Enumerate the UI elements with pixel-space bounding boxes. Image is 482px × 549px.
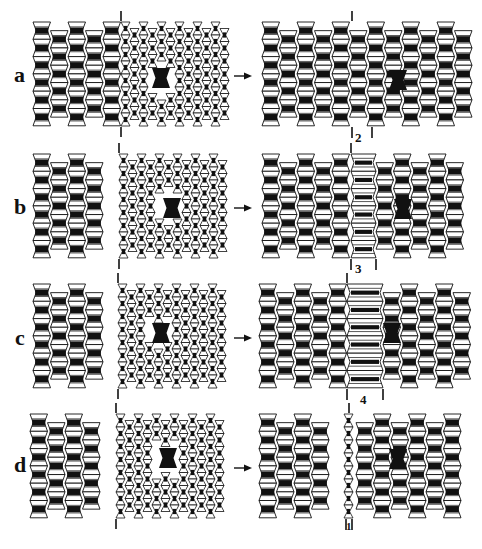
before-lattice-b <box>33 143 227 269</box>
before-lattice-d <box>30 403 224 529</box>
transform-arrow-c <box>234 335 252 342</box>
lattice-row-b <box>33 143 464 270</box>
row-label-d: d <box>14 454 26 476</box>
after-lattice-b <box>262 143 464 270</box>
row-label-b: b <box>14 196 26 218</box>
transform-arrow-a <box>234 73 252 80</box>
after-lattice-c <box>259 273 471 400</box>
row-label-a: a <box>14 64 25 86</box>
lattice-row-a <box>33 11 472 138</box>
lattice-canvas <box>0 0 482 549</box>
row-label-c: c <box>15 327 25 349</box>
before-lattice-c <box>33 273 226 399</box>
lattice-row-c <box>33 273 471 400</box>
after-lattice-d <box>259 403 461 530</box>
lattice-figure: a b c d 2 3 4 1 <box>0 0 482 549</box>
boundary-marker-1: 1 <box>346 521 352 532</box>
transform-arrow-d <box>234 465 252 472</box>
boundary-marker-4: 4 <box>360 393 367 406</box>
boundary-marker-2: 2 <box>355 131 362 144</box>
lattice-row-d <box>30 403 461 530</box>
boundary-marker-3: 3 <box>355 262 362 275</box>
transform-arrow-b <box>234 205 252 212</box>
before-lattice-a <box>33 11 229 137</box>
after-lattice-a <box>262 11 472 138</box>
